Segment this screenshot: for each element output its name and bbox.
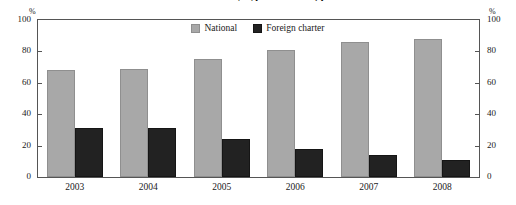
- y-tick-label-right: 60: [487, 78, 511, 87]
- y-tick-label-left: 40: [7, 109, 31, 118]
- bar-foreign-charter-2008: [442, 160, 470, 177]
- x-tick-label: 2003: [38, 182, 112, 192]
- y-tick-label-right: 20: [487, 141, 511, 150]
- y-tick-label-right: 40: [487, 109, 511, 118]
- bar-foreign-charter-2004: [148, 128, 176, 177]
- bar-group: [47, 20, 103, 177]
- chart-title: Share of loans by type of lender, per ce…: [0, 0, 516, 1]
- bar-group: [267, 20, 323, 177]
- bar-foreign-charter-2007: [369, 155, 397, 177]
- bar-group: [341, 20, 397, 177]
- y-tick-label-left: 20: [7, 141, 31, 150]
- x-tick-label: 2005: [185, 182, 259, 192]
- y-tick-label-right: 0: [487, 172, 511, 181]
- bar-chart: Share of loans by type of lender, per ce…: [0, 0, 516, 205]
- y-tick-label-left: 80: [7, 46, 31, 55]
- bar-national-2008: [414, 39, 442, 177]
- y-tick-label-right: 80: [487, 46, 511, 55]
- bar-national-2005: [194, 59, 222, 177]
- x-tick-label: 2007: [332, 182, 406, 192]
- bar-group: [194, 20, 250, 177]
- bar-group: [414, 20, 470, 177]
- bar-national-2003: [47, 70, 75, 177]
- bar-foreign-charter-2006: [295, 149, 323, 177]
- bar-foreign-charter-2005: [222, 139, 250, 177]
- x-tick-label: 2004: [112, 182, 186, 192]
- y-tick-label-right: 100: [487, 15, 511, 24]
- y-tick-label-left: 100: [7, 15, 31, 24]
- y-tick-label-left: 60: [7, 78, 31, 87]
- y-tick-label-left: 0: [7, 172, 31, 181]
- x-axis-labels: 200320042005200620072008: [38, 182, 479, 198]
- bar-group: [120, 20, 176, 177]
- bar-national-2007: [341, 42, 369, 177]
- x-tick-label: 2006: [259, 182, 333, 192]
- bar-national-2006: [267, 50, 295, 177]
- bar-foreign-charter-2003: [75, 128, 103, 177]
- bars-container: [38, 20, 479, 177]
- x-tick-label: 2008: [406, 182, 480, 192]
- bar-national-2004: [120, 69, 148, 177]
